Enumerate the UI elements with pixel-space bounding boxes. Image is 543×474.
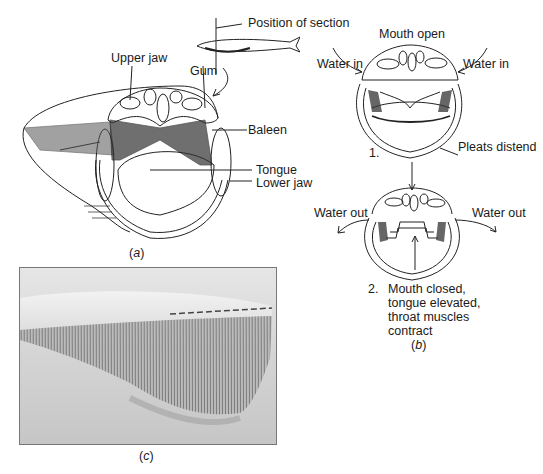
baleen-photo — [19, 267, 277, 445]
label-pleats-distend: Pleats distend — [458, 140, 537, 154]
step-2-number: 2. — [368, 282, 378, 296]
label-water-out-right: Water out — [472, 206, 526, 220]
step-2-line: throat muscles — [388, 310, 480, 324]
label-water-out-left: Water out — [314, 206, 368, 220]
caption-c: (c) — [139, 449, 154, 463]
step-1-number: 1. — [369, 146, 379, 160]
step-2-description: Mouth closed, tongue elevated, throat mu… — [388, 282, 480, 338]
step-2-line: tongue elevated, — [388, 296, 480, 310]
label-water-in-left: Water in — [317, 57, 363, 71]
step-2-line: contract — [388, 324, 480, 338]
step-2-line: Mouth closed, — [388, 282, 480, 296]
label-water-in-right: Water in — [463, 57, 509, 71]
caption-b: (b) — [411, 338, 426, 352]
label-mouth-open: Mouth open — [379, 27, 445, 41]
